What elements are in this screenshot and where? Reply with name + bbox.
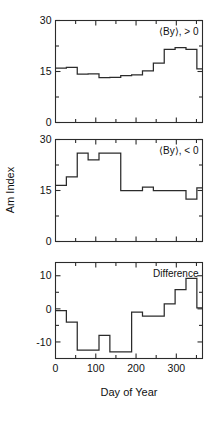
- y-tick-label: 0: [46, 303, 52, 315]
- y-tick-label: 0: [46, 116, 52, 128]
- x-axis-title: Day of Year: [101, 386, 158, 398]
- y-tick-label: -10: [36, 336, 51, 348]
- y-tick-label: 30: [40, 133, 52, 145]
- panel-2: 01530⟨By⟩, < 0: [40, 133, 203, 247]
- y-tick-label: 15: [40, 65, 52, 77]
- y-axis-title: Am Index: [4, 166, 16, 213]
- y-tick-label: 30: [40, 14, 52, 26]
- step-series-line: [56, 278, 203, 351]
- panel-3: -10010Difference0100200300: [36, 263, 202, 374]
- panel-annotation-label: ⟨By⟩, < 0: [159, 145, 199, 156]
- y-tick-label: 10: [40, 269, 52, 281]
- panel-1: 01530⟨By⟩, > 0: [40, 14, 203, 128]
- y-tick-label: 0: [46, 235, 52, 247]
- x-tick-label: 300: [168, 362, 186, 374]
- y-tick-label: 15: [40, 184, 52, 196]
- x-tick-label: 100: [87, 362, 105, 374]
- figure-container: 01530⟨By⟩, > 001530⟨By⟩, < 0-10010Differ…: [0, 0, 217, 422]
- x-tick-label: 0: [53, 362, 59, 374]
- step-series-line: [56, 48, 203, 78]
- am-index-seasonal-figure: 01530⟨By⟩, > 001530⟨By⟩, < 0-10010Differ…: [0, 0, 217, 422]
- panel-annotation-label: ⟨By⟩, > 0: [159, 26, 199, 37]
- x-tick-label: 200: [127, 362, 145, 374]
- panel-annotation-label: Difference: [153, 268, 199, 279]
- step-series-line: [56, 153, 203, 199]
